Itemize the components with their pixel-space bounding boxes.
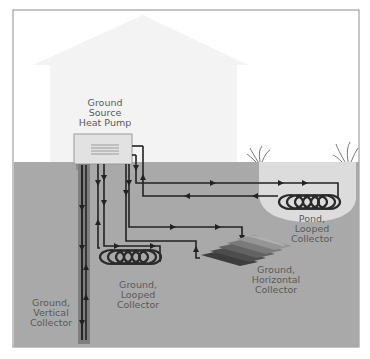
- label-heat-pump: Ground Source Heat Pump: [76, 98, 134, 128]
- label-looped-collector: Ground, Looped Collector: [112, 280, 164, 310]
- label-vertical-collector: Ground, Vertical Collector: [24, 298, 78, 328]
- label-pond-collector: Pond, Looped Collector: [286, 214, 338, 244]
- label-horizontal-collector: Ground, Horizontal Collector: [246, 265, 306, 295]
- vertical-borehole: [78, 164, 90, 344]
